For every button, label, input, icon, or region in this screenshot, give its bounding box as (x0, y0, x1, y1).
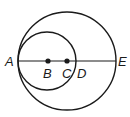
label-b: B (43, 66, 52, 81)
label-d: D (77, 66, 86, 81)
geometry-diagram: A B C D E (0, 0, 130, 117)
point-c-dot (64, 58, 69, 63)
point-b-dot (45, 58, 50, 63)
label-e: E (118, 54, 127, 69)
label-a: A (4, 54, 14, 69)
label-c: C (62, 66, 72, 81)
